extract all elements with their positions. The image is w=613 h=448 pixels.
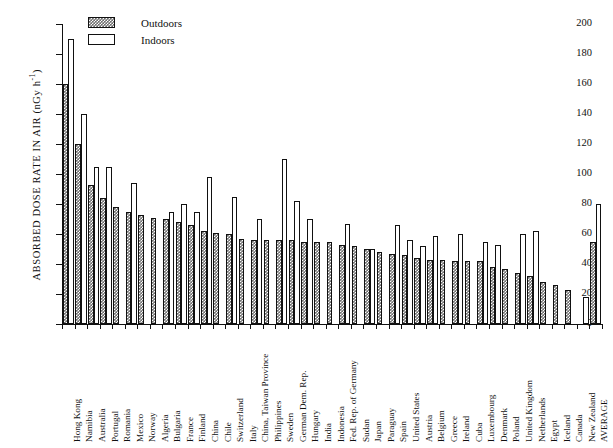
bar-group [338,24,351,324]
bar-outdoors [352,246,358,324]
bar-group [401,24,414,324]
x-tick [250,324,251,329]
x-tick [100,324,101,329]
bar-group [250,24,263,324]
x-axis-label: Portugal [110,411,120,442]
x-axis-label: India [323,423,333,442]
bar-group [313,24,326,324]
x-axis-label: Cuba [474,423,484,442]
bar-outdoors [465,261,471,324]
x-axis-label: Netherlands [537,398,547,442]
x-axis-label: Egypt [549,420,559,442]
bar-group [351,24,364,324]
bar-group [464,24,477,324]
bar-group [150,24,163,324]
bar-group [87,24,100,324]
x-tick [564,324,565,329]
x-axis-line [62,324,603,325]
x-axis-label: China, Taiwan Province [260,354,270,442]
x-tick [502,324,503,329]
bar-outdoors [565,290,571,325]
x-axis-label: Romania [122,409,132,442]
x-axis-label: German Dem. Rep. [298,371,308,442]
x-tick [514,324,515,329]
x-axis-label: Belgium [436,410,446,442]
bar-group [514,24,527,324]
x-tick [577,324,578,329]
bar-group [577,24,590,324]
bar-group [175,24,188,324]
bar-indoors [407,240,413,324]
bar-group [188,24,201,324]
x-axis-label: Paraguay [386,408,396,442]
bar-indoors [495,245,501,325]
bar-indoors [294,201,300,324]
bar-group [476,24,489,324]
x-axis-label: Switzerland [235,398,245,442]
x-tick [351,324,352,329]
bar-outdoors [239,239,245,325]
y-axis-title-exponent: -1 [28,73,37,80]
bar-group [238,24,251,324]
bar-group [125,24,138,324]
x-axis-label: Algeria [160,414,170,442]
bar-outdoors [553,285,559,324]
x-tick [313,324,314,329]
bar-group [75,24,88,324]
bar-indoors [282,159,288,324]
bar-group [451,24,464,324]
bar-indoors [94,167,100,325]
bar-group [288,24,301,324]
x-tick [363,324,364,329]
bar-series-container [62,24,602,324]
x-axis-label: Greece [449,416,459,442]
bar-outdoors [327,242,333,325]
x-axis-label: Namibia [84,410,94,442]
x-axis-label: Hong Kong [72,399,82,442]
x-axis-label: Sweden [285,413,295,442]
x-axis-label: AVERAGE [599,399,609,442]
x-axis-label: France [185,417,195,442]
bar-group [489,24,502,324]
bar-group [263,24,276,324]
x-axis-label: New Zealand [587,393,597,442]
x-tick [476,324,477,329]
x-tick [326,324,327,329]
x-axis-label: Austria [424,415,434,442]
bar-group [225,24,238,324]
bar-group [112,24,125,324]
bar-group [414,24,427,324]
x-tick [539,324,540,329]
bar-indoors [458,234,464,324]
bar-indoors [370,249,376,324]
x-axis-label: Spain [398,421,408,442]
bar-outdoors [440,260,446,325]
bar-indoors [232,197,238,325]
x-tick [75,324,76,329]
x-axis-label: Iceland [562,415,572,442]
bar-indoors [583,297,589,324]
x-tick [489,324,490,329]
bar-outdoors [502,269,508,325]
bar-indoors [169,212,175,325]
x-tick [112,324,113,329]
x-tick [200,324,201,329]
bar-indoors [207,177,213,324]
x-tick [338,324,339,329]
x-axis-label: Finland [197,414,207,442]
x-axis-label: Hungary [310,410,320,442]
bar-group [301,24,314,324]
x-axis-label: United Kingdom [524,380,534,442]
x-tick [213,324,214,329]
bar-group [162,24,175,324]
bar-group [275,24,288,324]
bar-group [100,24,113,324]
x-tick [414,324,415,329]
x-axis-labels: Hong KongNamibiaAustraliaPortugalRomania… [62,330,603,445]
bar-group [439,24,452,324]
x-axis-label: Fed. Rep. of Germany [348,360,358,442]
x-tick [439,324,440,329]
bar-group [62,24,75,324]
bar-outdoors [213,233,219,325]
bar-indoors [395,225,401,324]
